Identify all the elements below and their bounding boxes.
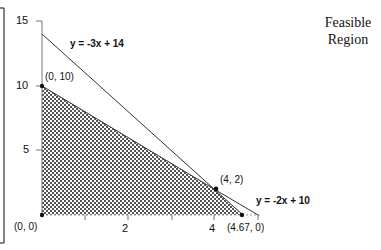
x-tick-4: 4 (209, 222, 215, 234)
y-tick-5: 5 (23, 143, 29, 155)
equation-upper: y = -3x + 14 (70, 38, 124, 49)
title-line-1: Feasible (318, 14, 378, 31)
title-line-2: Region (318, 31, 378, 48)
vertex-0-10 (40, 84, 44, 88)
vertex-4-2 (214, 187, 219, 192)
y-tick-10: 10 (16, 79, 28, 91)
chart-title: Feasible Region (318, 14, 378, 48)
label-origin: (0, 0) (14, 221, 37, 232)
label-4-2: (4, 2) (220, 174, 243, 185)
x-axis (42, 215, 260, 220)
left-bracket (0, 8, 4, 243)
label-4.67-0: (4.67, 0) (227, 222, 264, 233)
vertex-origin (40, 213, 44, 217)
y-tick-15: 15 (16, 14, 28, 26)
feasible-region (42, 86, 243, 215)
equation-lower: y = -2x + 10 (256, 195, 310, 206)
vertex-4.67-0 (240, 213, 244, 217)
label-0-10: (0, 10) (45, 71, 74, 82)
y-axis (36, 21, 42, 215)
x-tick-2: 2 (122, 222, 128, 234)
